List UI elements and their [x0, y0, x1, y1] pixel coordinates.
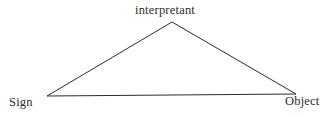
triangle-outline: [47, 22, 296, 96]
node-label-sign: Sign: [9, 96, 33, 109]
node-label-interpretant: interpretant: [135, 4, 195, 17]
diagram-canvas: interpretant Sign Object: [0, 0, 329, 117]
node-label-object: Object: [285, 95, 320, 108]
semiotic-triangle-graphic: [0, 0, 329, 117]
